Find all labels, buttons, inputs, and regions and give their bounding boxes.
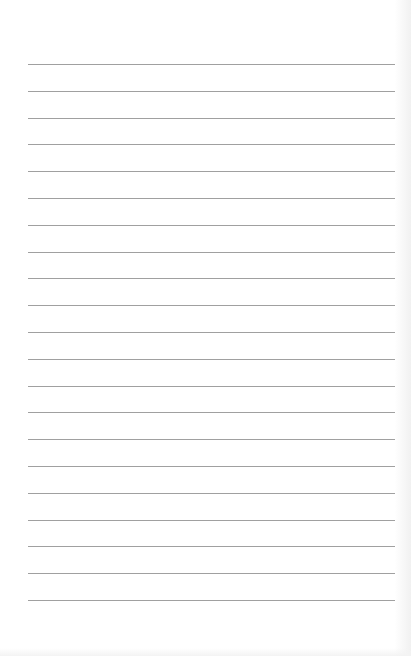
ruled-line: [28, 439, 395, 440]
ruled-line: [28, 466, 395, 467]
page-edge-shadow: [0, 648, 411, 656]
ruled-line: [28, 144, 395, 145]
ruled-line: [28, 359, 395, 360]
ruled-line: [28, 412, 395, 413]
ruled-line: [28, 332, 395, 333]
ruled-line: [28, 225, 395, 226]
ruled-line: [28, 493, 395, 494]
ruled-line: [28, 171, 395, 172]
ruled-line: [28, 386, 395, 387]
ruled-line: [28, 305, 395, 306]
ruled-line: [28, 252, 395, 253]
ruled-line: [28, 573, 395, 574]
ruled-line: [28, 64, 395, 65]
ruled-line: [28, 118, 395, 119]
ruled-line: [28, 546, 395, 547]
ruled-line: [28, 278, 395, 279]
ruled-line: [28, 91, 395, 92]
ruled-line: [28, 520, 395, 521]
lined-paper-page: [0, 0, 411, 656]
ruled-line: [28, 600, 395, 601]
ruled-line: [28, 198, 395, 199]
